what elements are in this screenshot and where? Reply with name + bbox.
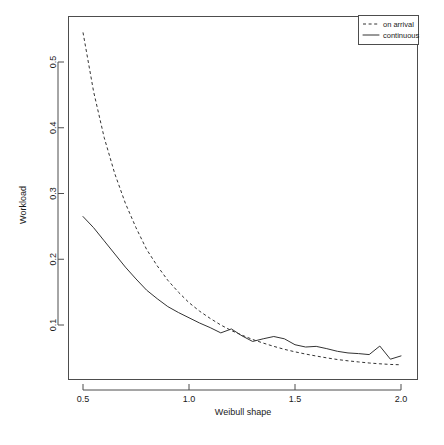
legend-label: continuous [383,31,420,40]
x-axis-tick-label: 0.5 [77,394,90,404]
plot-frame [69,17,418,380]
y-axis-tick-label: 0.1 [48,319,58,332]
x-axis: 0.51.01.52.0 [77,384,408,404]
chart-figure: 0.10.20.30.40.5 0.51.01.52.0 Weibull sha… [0,0,444,445]
y-axis-tick-label: 0.2 [48,253,58,266]
y-axis-title: Workload [18,186,28,224]
x-axis-title: Weibull shape [215,407,271,417]
x-axis-tick-label: 1.5 [289,394,302,404]
y-axis-tick-label: 0.4 [48,121,58,134]
x-axis-tick-label: 2.0 [395,394,408,404]
chart-legend: on arrivalcontinuous [359,16,420,45]
legend-label: on arrival [383,20,414,29]
y-axis-tick-label: 0.5 [48,56,58,69]
series-line-on-arrival [83,32,401,364]
data-series-group [83,32,401,364]
series-line-continuous [83,217,401,360]
y-axis: 0.10.20.30.40.5 [48,56,64,332]
y-axis-tick-label: 0.3 [48,187,58,200]
x-axis-tick-label: 1.0 [183,394,196,404]
plot-canvas: 0.10.20.30.40.5 0.51.01.52.0 Weibull sha… [0,0,444,445]
